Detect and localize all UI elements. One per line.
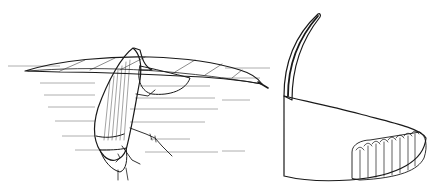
cocoon-mast	[284, 14, 320, 100]
illustration	[0, 0, 438, 192]
illustration-canvas	[0, 0, 438, 192]
cocoon-body	[284, 96, 426, 181]
beetle-legs	[118, 90, 172, 180]
